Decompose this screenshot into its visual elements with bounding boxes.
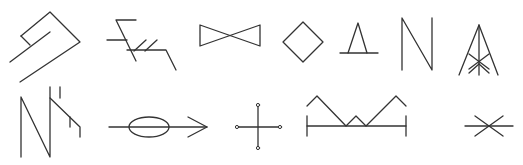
n-with-ticks-icon [21,87,80,157]
asterisk-cross-icon [465,116,513,136]
branch-with-hatching-icon [107,20,176,70]
symbol-diagram: hooked-parallel-strokes branch-with-hatc… [0,0,523,165]
bowtie-icon [200,25,260,46]
zigzag-over-bracket-icon [307,96,406,136]
n-shape-icon [402,18,432,70]
ellipse-arrow-icon [109,117,207,137]
cross-with-end-dots-icon [235,103,281,149]
symbol-canvas [0,0,523,165]
tower-frame-icon [459,25,498,75]
diamond-icon [283,22,323,62]
hooked-parallel-strokes-icon [10,12,80,82]
triangle-on-baseline-icon [340,23,378,53]
